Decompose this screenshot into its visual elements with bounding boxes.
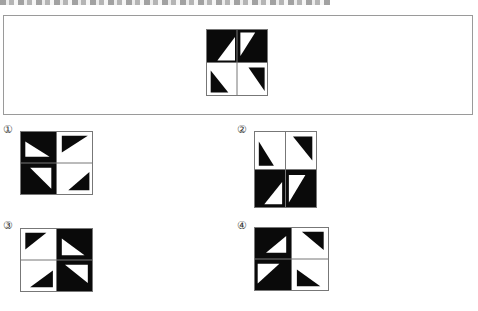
- tile-grid: [206, 29, 268, 96]
- option-1-figure[interactable]: [20, 131, 93, 195]
- question-figure: [206, 29, 268, 96]
- option-1-label[interactable]: ①: [3, 124, 13, 136]
- option-3-figure[interactable]: [20, 228, 93, 292]
- cell-bottom-right: [286, 170, 318, 209]
- cell-top-right: [57, 131, 94, 163]
- cell-bottom-left: [206, 63, 237, 97]
- clipped-header-text: [0, 0, 330, 5]
- cell-top-right: [292, 227, 330, 259]
- cell-top-right: [57, 228, 94, 260]
- cell-top-left: [206, 29, 237, 63]
- cell-top-left: [20, 131, 57, 163]
- cell-bottom-left: [20, 163, 57, 195]
- cell-top-left: [20, 228, 57, 260]
- cell-bottom-left: [254, 170, 286, 209]
- option-3-label[interactable]: ③: [3, 220, 13, 232]
- cell-bottom-left: [20, 260, 57, 292]
- option-2-figure[interactable]: [254, 131, 317, 208]
- tile-grid: [20, 228, 93, 292]
- cell-top-right: [286, 131, 318, 170]
- tile-grid: [254, 131, 317, 208]
- cell-bottom-right: [237, 63, 268, 97]
- option-4-figure[interactable]: [254, 227, 329, 291]
- cell-bottom-left: [254, 259, 292, 291]
- cell-bottom-right: [57, 260, 94, 292]
- option-2-label[interactable]: ②: [237, 124, 247, 136]
- cell-top-left: [254, 131, 286, 170]
- cell-top-left: [254, 227, 292, 259]
- cell-bottom-right: [292, 259, 330, 291]
- option-4-label[interactable]: ④: [237, 220, 247, 232]
- cell-bottom-right: [57, 163, 94, 195]
- tile-grid: [254, 227, 329, 291]
- tile-grid: [20, 131, 93, 195]
- cell-top-right: [237, 29, 268, 63]
